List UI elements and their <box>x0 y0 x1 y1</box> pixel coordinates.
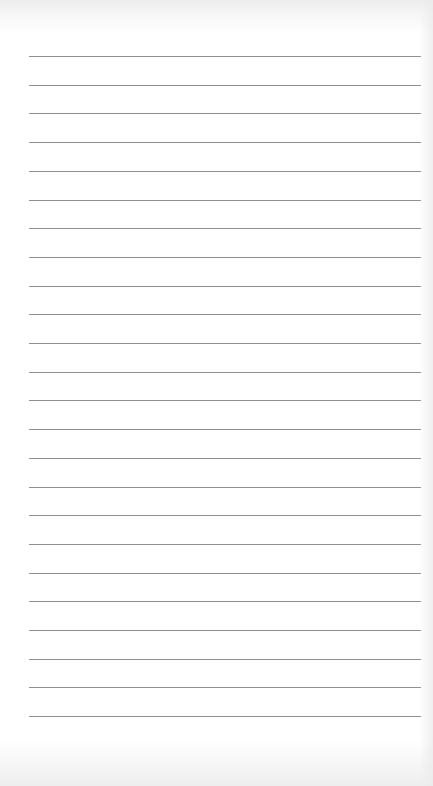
ruled-line <box>29 286 421 287</box>
ruled-line <box>29 171 421 172</box>
ruled-line <box>29 573 421 574</box>
ruled-line <box>29 458 421 459</box>
ruled-line <box>29 228 421 229</box>
ruled-line <box>29 200 421 201</box>
ruled-line <box>29 429 421 430</box>
ruled-line <box>29 56 421 57</box>
ruled-line <box>29 85 421 86</box>
ruled-line <box>29 515 421 516</box>
ruled-line <box>29 544 421 545</box>
ruled-line <box>29 630 421 631</box>
ruled-line <box>29 142 421 143</box>
ruled-line <box>29 400 421 401</box>
ruled-line <box>29 314 421 315</box>
ruled-line <box>29 716 421 717</box>
ruled-line <box>29 601 421 602</box>
ruled-line <box>29 113 421 114</box>
ruled-line <box>29 687 421 688</box>
lined-paper-sheet <box>0 0 433 786</box>
ruled-line <box>29 257 421 258</box>
ruled-line <box>29 343 421 344</box>
ruled-line <box>29 487 421 488</box>
ruled-line <box>29 372 421 373</box>
ruled-line <box>29 659 421 660</box>
